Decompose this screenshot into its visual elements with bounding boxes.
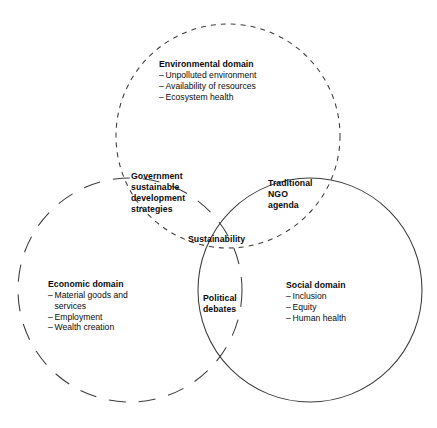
overlap-political-line: debates <box>203 304 237 315</box>
environmental-domain-title: Environmental domain <box>159 59 257 70</box>
overlap-government-line: development <box>131 193 185 204</box>
overlap-label-sustainability: Sustainability <box>188 234 245 245</box>
economic-domain-label: Economic domain –Material goods and serv… <box>48 279 128 333</box>
social-domain-label: Social domain –Inclusion –Equity –Human … <box>286 280 346 323</box>
venn-diagram: Environmental domain –Unpolluted environ… <box>0 0 437 428</box>
overlap-government-line: sustainable <box>131 182 185 193</box>
overlap-government-line: Government <box>131 171 185 182</box>
overlap-ngo-line: Traditional <box>268 178 312 189</box>
overlap-political-line: Political <box>203 293 237 304</box>
environmental-domain-item: –Availability of resources <box>159 81 257 92</box>
social-domain-item-text: Human health <box>293 313 347 323</box>
social-domain-item: –Inclusion <box>286 291 346 302</box>
environmental-domain-item: –Ecosystem health <box>159 92 257 103</box>
economic-domain-item-text: Material goods and <box>55 290 128 300</box>
environmental-domain-label: Environmental domain –Unpolluted environ… <box>159 59 257 102</box>
environmental-domain-item-text: Unpolluted environment <box>166 70 257 80</box>
economic-domain-item: –Material goods and <box>48 290 128 301</box>
social-domain-title: Social domain <box>286 280 346 291</box>
overlap-label-ngo: Traditional NGO agenda <box>268 178 312 211</box>
economic-domain-item: –Employment <box>48 312 128 323</box>
environmental-domain-item-text: Availability of resources <box>166 81 256 91</box>
social-domain-item-text: Equity <box>293 302 317 312</box>
overlap-ngo-line: NGO <box>268 189 312 200</box>
social-domain-item: –Human health <box>286 313 346 324</box>
economic-domain-title: Economic domain <box>48 279 128 290</box>
overlap-label-political: Political debates <box>203 293 237 315</box>
overlap-label-government: Government sustainable development strat… <box>131 171 185 215</box>
overlap-sustainability-line: Sustainability <box>188 234 245 245</box>
economic-domain-item-continuation: services <box>48 301 128 312</box>
environmental-domain-item-text: Ecosystem health <box>166 92 234 102</box>
economic-domain-item-text: Wealth creation <box>55 322 115 332</box>
environmental-domain-item: –Unpolluted environment <box>159 70 257 81</box>
social-domain-item-text: Inclusion <box>293 291 327 301</box>
economic-domain-item: –Wealth creation <box>48 322 128 333</box>
social-domain-item: –Equity <box>286 302 346 313</box>
overlap-ngo-line: agenda <box>268 200 312 211</box>
overlap-government-line: strategies <box>131 204 185 215</box>
economic-domain-item-text: Employment <box>55 312 103 322</box>
